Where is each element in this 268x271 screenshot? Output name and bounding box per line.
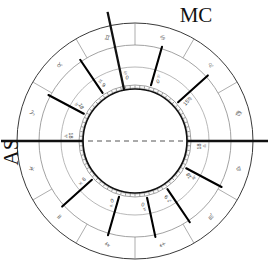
zodiac-glyph-sagittarius: ♐ — [159, 239, 167, 248]
chart-canvas: ♈♉♊♋♌♍♎♏♐♑♒♓ ♎♏♐♑♒♓♈♉♊♋♌♍ 18189009181890… — [0, 0, 268, 271]
zodiac-divider — [76, 39, 87, 58]
astrology-chart-wheel: ♈♉♊♋♌♍♎♏♐♑♒♓ ♎♏♐♑♒♓♈♉♊♋♌♍ 18189009181890… — [0, 0, 268, 271]
house-degree-label-10: 0 — [125, 74, 129, 80]
zodiac-glyph-virgo: ♍ — [234, 109, 243, 117]
zodiac-glyph-capricorn: ♑ — [103, 240, 111, 249]
house-degree-label-2: 18 — [185, 172, 193, 180]
as-axis-label: AS — [0, 139, 23, 166]
zodiac-divider — [183, 39, 194, 58]
zodiac-glyph-gemini: ♊ — [103, 33, 111, 42]
house-degree-label-8: 18 — [77, 102, 85, 110]
zodiac-glyph-libra: ♎ — [234, 165, 243, 173]
mc-axis-label: MC — [180, 3, 213, 27]
zodiac-glyph-scorpio: ♏ — [206, 211, 216, 221]
zodiac-divider — [33, 82, 52, 93]
zodiac-glyph-taurus: ♉ — [54, 61, 64, 71]
zodiac-glyph-cancer: ♋ — [159, 33, 167, 42]
house-cusp-line-6 — [62, 180, 92, 207]
zodiac-divider — [218, 189, 237, 200]
house-degree-label-4: 0 — [141, 201, 145, 207]
house-degree-label-5: 0 — [110, 197, 115, 204]
zodiac-divider — [76, 224, 87, 243]
zodiac-glyph-pisces: ♓ — [27, 165, 36, 173]
house-degree-label-1: 18 — [196, 144, 202, 150]
zodiac-divider — [33, 189, 52, 200]
zodiac-divider — [183, 224, 194, 243]
zodiac-divider — [218, 82, 237, 93]
zodiac-glyph-aquarius: ♒ — [54, 212, 64, 222]
house-sign-glyph-7: ♈ — [63, 134, 68, 138]
house-degree-label-11: 0 — [156, 78, 161, 85]
house-sign-glyph-6: ♓ — [77, 180, 83, 186]
zodiac-glyph-aries: ♈ — [27, 110, 36, 118]
zodiac-glyph-leo: ♌ — [206, 61, 216, 71]
house-degree-label-7: 18 — [68, 132, 74, 138]
house-cusp-line-12 — [178, 75, 208, 102]
house-sign-glyph-1: ♎ — [202, 144, 207, 148]
house-cusp-line-4 — [147, 198, 155, 237]
